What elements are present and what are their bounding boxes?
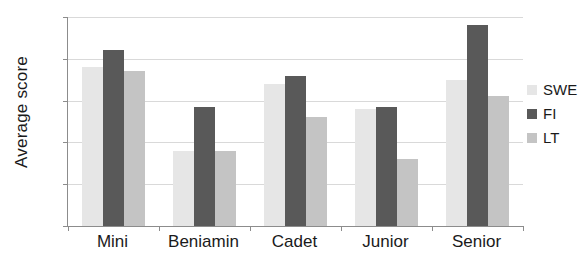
bar-lt-mini <box>124 71 145 226</box>
bar-lt-beniamin <box>215 151 236 226</box>
bar-lt-cadet <box>306 117 327 226</box>
bar-group <box>341 17 432 226</box>
x-axis-label-mini: Mini <box>67 232 158 252</box>
x-axis-label-senior: Senior <box>431 232 522 252</box>
chart-legend: SWEFILT <box>527 82 577 145</box>
x-axis-tick-mark <box>250 226 251 231</box>
bar-fi-senior <box>467 25 488 226</box>
legend-item-swe[interactable]: SWE <box>527 82 577 97</box>
bar-swe-beniamin <box>173 151 194 226</box>
bar-swe-cadet <box>264 84 285 226</box>
bar-swe-junior <box>355 109 376 226</box>
bar-lt-senior <box>488 96 509 226</box>
bar-fi-cadet <box>285 76 306 226</box>
y-axis-title: Average score <box>12 22 32 202</box>
bar-fi-junior <box>376 107 397 226</box>
x-axis-tick-mark <box>341 226 342 231</box>
bar-lt-junior <box>397 159 418 226</box>
bar-group <box>432 17 523 226</box>
legend-item-lt[interactable]: LT <box>527 130 577 145</box>
legend-swatch-icon <box>527 85 537 95</box>
bar-swe-mini <box>82 67 103 226</box>
x-axis-tick-mark <box>68 226 69 231</box>
x-axis-label-cadet: Cadet <box>249 232 340 252</box>
legend-item-fi[interactable]: FI <box>527 106 577 121</box>
x-axis-tick-mark <box>432 226 433 231</box>
bar-chart: Average score 01020304050 MiniBeniaminCa… <box>0 0 580 263</box>
plot-area: 01020304050 <box>67 17 523 227</box>
legend-swatch-icon <box>527 133 537 143</box>
bar-group <box>159 17 250 226</box>
bar-fi-mini <box>103 50 124 226</box>
x-axis-tick-mark <box>159 226 160 231</box>
x-axis-labels: MiniBeniaminCadetJuniorSenior <box>67 232 522 252</box>
bar-group <box>68 17 159 226</box>
legend-label: FI <box>543 106 556 121</box>
bar-swe-senior <box>446 80 467 226</box>
bar-group <box>250 17 341 226</box>
bar-fi-beniamin <box>194 107 215 226</box>
legend-swatch-icon <box>527 109 537 119</box>
x-axis-label-beniamin: Beniamin <box>158 232 249 252</box>
x-axis-label-junior: Junior <box>340 232 431 252</box>
legend-label: LT <box>543 130 559 145</box>
x-axis-tick-mark <box>523 226 524 231</box>
bar-groups <box>68 17 523 226</box>
legend-label: SWE <box>543 82 577 97</box>
